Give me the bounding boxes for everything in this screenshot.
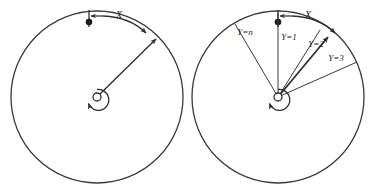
label-y-2: Y=2 bbox=[308, 39, 324, 49]
left-marker-dot bbox=[86, 19, 93, 26]
right-panel: X Y=n Y=1 Y=2 Y=3 bbox=[192, 9, 364, 183]
right-x-label: X bbox=[304, 9, 312, 20]
left-radius-arrow bbox=[99, 39, 156, 95]
left-panel: X bbox=[11, 9, 183, 183]
label-y-3: Y=3 bbox=[328, 53, 344, 63]
left-hub-circle bbox=[93, 93, 101, 101]
diagram-canvas: X X Y=n Y=1 Y=2 Y=3 bbox=[0, 0, 370, 188]
label-y-1: Y=1 bbox=[281, 32, 297, 42]
label-y-n: Y=n bbox=[237, 27, 253, 37]
left-x-label: X bbox=[115, 9, 123, 20]
right-hub-circle bbox=[274, 93, 282, 101]
diagram-figure: X X Y=n Y=1 Y=2 Y=3 bbox=[0, 0, 370, 188]
left-arc-arrow-sweep bbox=[103, 16, 146, 33]
radius-line-y-3 bbox=[278, 62, 357, 97]
